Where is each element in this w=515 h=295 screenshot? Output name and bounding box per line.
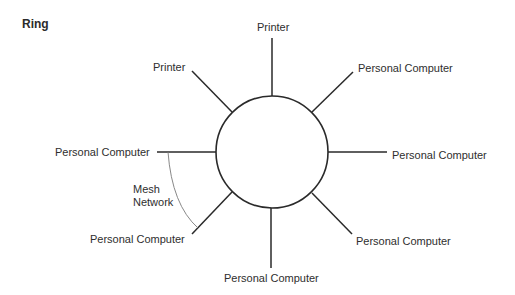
node-label-right: Personal Computer [392, 149, 487, 162]
node-label-bottom: Personal Computer [224, 272, 319, 285]
spoke-top-right [312, 72, 353, 112]
mesh-network-label-line1: Mesh [133, 183, 160, 196]
mesh-network-label-line2: Network [133, 196, 173, 209]
spoke-top-left [192, 71, 232, 112]
node-label-top-left: Printer [153, 61, 185, 74]
mesh-network-arc [168, 152, 198, 228]
node-label-bottom-left: Personal Computer [90, 233, 185, 246]
node-label-top: Printer [257, 21, 289, 34]
spoke-bottom-right [312, 193, 352, 234]
node-label-bottom-right: Personal Computer [356, 235, 451, 248]
ring-circle [216, 96, 328, 208]
node-label-left: Personal Computer [55, 146, 150, 159]
node-label-top-right: Personal Computer [358, 62, 453, 75]
